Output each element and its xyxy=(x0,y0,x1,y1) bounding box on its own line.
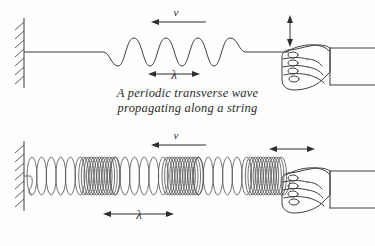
coil-turn xyxy=(139,157,149,195)
string-wave-path xyxy=(24,38,289,66)
coil-turn xyxy=(65,157,75,195)
wavelength-label-transverse: λ xyxy=(170,67,177,82)
wave-diagram-sheet: v λ xyxy=(0,0,375,246)
longitudinal-wave-drawing: v λ xyxy=(0,123,375,246)
coil-turn xyxy=(213,157,223,195)
velocity-arrow-transverse xyxy=(151,19,206,25)
coil-turn xyxy=(130,157,140,195)
wall-support-transverse xyxy=(15,18,24,88)
velocity-label-longitudinal: v xyxy=(174,129,179,141)
wall-support-longitudinal xyxy=(15,141,24,211)
hand-fist-transverse xyxy=(282,45,375,90)
coil-turn xyxy=(120,157,130,195)
hand-motion-arrow-longitudinal xyxy=(269,146,315,152)
figure-transverse-wave: v λ xyxy=(0,0,375,123)
coil-turn xyxy=(222,157,232,195)
wavelength-label-longitudinal: λ xyxy=(135,207,142,222)
caption-transverse-line-1: A periodic transverse wave xyxy=(0,86,375,101)
coil-turn xyxy=(46,157,56,195)
hand-motion-arrow-transverse xyxy=(287,15,293,47)
caption-transverse: A periodic transverse wave propagating a… xyxy=(0,86,375,116)
caption-transverse-line-2: propagating along a string xyxy=(0,101,375,116)
figure-longitudinal-wave: v λ xyxy=(0,123,375,246)
velocity-label-transverse: v xyxy=(174,6,179,18)
coil-spring xyxy=(27,157,287,195)
coil-turn xyxy=(203,157,213,195)
coil-turn xyxy=(37,157,47,195)
coil-turn xyxy=(149,157,159,195)
hand-fist-longitudinal xyxy=(282,168,375,213)
coil-turn xyxy=(232,157,242,195)
velocity-arrow-longitudinal xyxy=(151,142,206,148)
coil-turn xyxy=(56,157,66,195)
